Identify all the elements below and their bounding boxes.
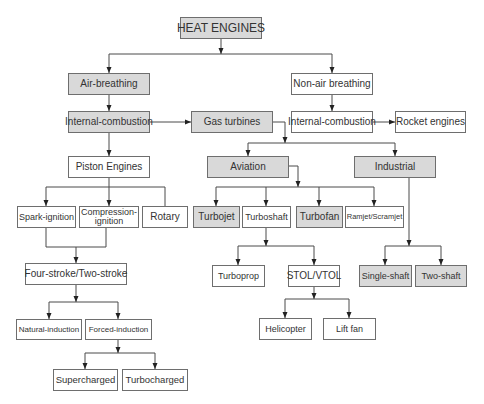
connector-line [289,166,298,187]
node-aviation: Aviation [207,156,289,178]
node-four-stroke-two-stroke: Four-stroke/Two-stroke [25,263,127,285]
node-spark-ignition: Spark-ignition [17,206,76,228]
connector-layer [0,0,484,404]
node-industrial: Industrial [354,156,436,178]
connector-line [46,228,106,247]
node-stol-vtol: STOL/VTOL [288,265,340,287]
node-heat-engines: HEAT ENGINES [180,17,262,39]
node-supercharged: Supercharged [53,369,118,391]
arrowhead-gas-turbines-split [283,137,288,143]
node-turbocharged: Turbocharged [122,369,188,391]
node-rocket-engines: Rocket engines [395,111,466,133]
arrowhead-stroke-split [74,296,79,302]
node-turbofan: Turbofan [296,206,343,228]
node-turboshaft: Turboshaft [242,206,291,228]
node-compression-ignition: Compression-ignition [79,206,139,228]
node-forced-induction: Forced-induction [85,319,152,340]
node-rotary: Rotary [142,206,188,228]
node-turboprop: Turboprop [212,265,265,287]
node-air-breathing: Air-breathing [68,73,150,95]
connector-line [273,122,285,143]
arrowhead-stol-split [312,293,317,299]
arrowhead-forced-split [116,347,121,353]
arrowhead-aviation-split [296,181,301,187]
arrowhead-heat-engines [219,48,224,54]
node-turbojet: Turbojet [193,206,240,228]
node-piston-engines: Piston Engines [68,156,150,178]
node-ramjet-scramjet: Ramjet/Scramjet [345,206,404,228]
node-single-shaft: Single-shaft [359,265,412,287]
node-internal-combustion-air: Internal-combustion [68,111,150,133]
heat-engines-diagram: HEAT ENGINES Air-breathing Non-air breat… [0,0,484,404]
node-gas-turbines: Gas turbines [191,111,273,133]
node-lift-fan: Lift fan [323,318,376,340]
node-internal-combustion-non-air: Internal-combustion [291,111,373,133]
node-helicopter: Helicopter [259,318,312,340]
arrowhead-turboshaft-split [264,240,269,246]
node-two-shaft: Two-shaft [415,265,467,287]
node-natural-induction: Natural-induction [16,319,82,340]
node-non-air-breathing: Non-air breathing [291,73,373,95]
arrowhead-industrial-split [407,240,412,246]
